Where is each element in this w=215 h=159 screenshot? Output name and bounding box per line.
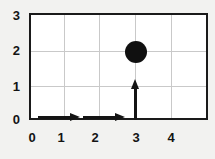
arrow-up — [131, 79, 140, 120]
arrow-shaft — [83, 116, 117, 119]
y-axis-tick-label-0: 0 — [4, 113, 20, 126]
data-point-marker — [125, 41, 147, 63]
arrow-shaft — [134, 87, 137, 120]
arrow-right-first — [38, 113, 80, 122]
y-axis-tick-label-2: 2 — [4, 44, 20, 57]
x-axis-tick-label-4: 4 — [163, 131, 179, 144]
arrow-right-second — [83, 113, 125, 122]
plot-area — [29, 13, 208, 120]
gridline-vertical-x1 — [64, 15, 65, 118]
gridline-horizontal-y1 — [31, 86, 206, 87]
arrow-head-up — [131, 79, 139, 89]
gridline-vertical-x2 — [99, 15, 100, 118]
x-axis-tick-label-1: 1 — [53, 131, 69, 144]
arrow-head-right — [115, 113, 125, 121]
arrow-head-right — [70, 113, 80, 121]
x-axis-tick-label-0: 0 — [24, 131, 40, 144]
x-axis-tick-label-2: 2 — [87, 131, 103, 144]
chart-figure: 3 2 1 0 0 1 2 3 4 — [0, 0, 215, 159]
y-axis-tick-label-1: 1 — [4, 80, 20, 93]
arrow-shaft — [38, 116, 72, 119]
y-axis-tick-label-3: 3 — [4, 9, 20, 22]
gridline-vertical-x4 — [171, 15, 172, 118]
x-axis-tick-label-3: 3 — [128, 131, 144, 144]
gridline-horizontal-y2 — [31, 51, 206, 52]
